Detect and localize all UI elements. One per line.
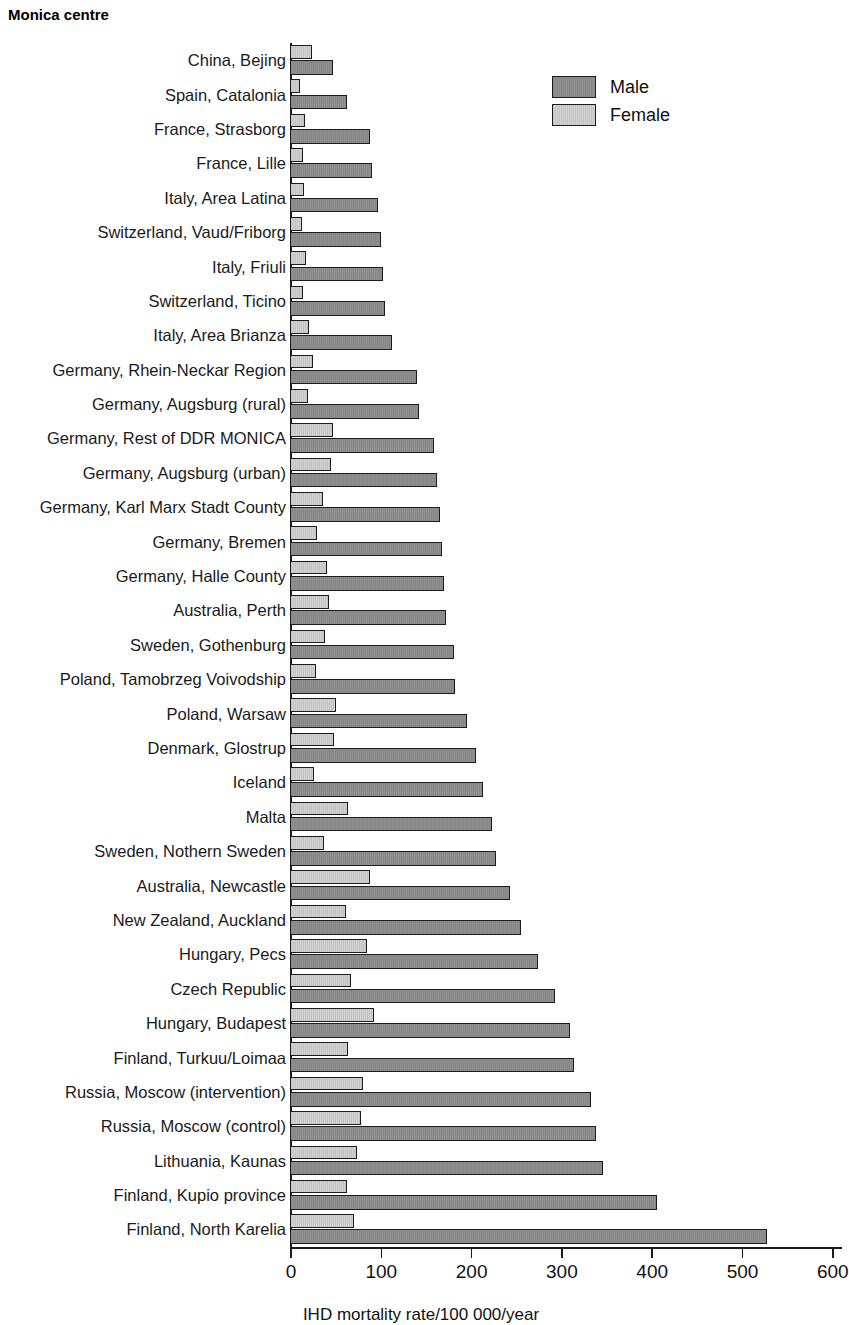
bar-pair bbox=[291, 662, 842, 696]
bar-pair bbox=[291, 834, 842, 868]
bar-pair bbox=[291, 937, 842, 971]
bar-male bbox=[291, 989, 555, 1004]
bar-male bbox=[291, 1161, 603, 1176]
bar-row: Malta bbox=[0, 800, 842, 834]
bar-pair bbox=[291, 421, 842, 455]
bar-row-label: Finland, Turkuu/Loimaa bbox=[114, 1049, 286, 1066]
bar-female bbox=[291, 1077, 363, 1091]
bar-female bbox=[291, 664, 316, 678]
bar-male bbox=[291, 198, 378, 213]
bar-female bbox=[291, 79, 300, 93]
bar-female bbox=[291, 870, 370, 884]
bar-pair bbox=[291, 1144, 842, 1178]
bar-row-label: Russia, Moscow (control) bbox=[101, 1118, 286, 1135]
bar-row: Spain, Catalonia bbox=[0, 77, 842, 111]
bar-pair bbox=[291, 628, 842, 662]
bar-pair bbox=[291, 972, 842, 1006]
bar-row-label: Poland, Warsaw bbox=[166, 705, 286, 722]
bar-female bbox=[291, 1042, 348, 1056]
bar-female bbox=[291, 286, 303, 300]
bar-pair bbox=[291, 318, 842, 352]
bar-row-label: Australia, Perth bbox=[173, 602, 286, 619]
bar-female bbox=[291, 595, 329, 609]
bar-pair bbox=[291, 1109, 842, 1143]
bar-male bbox=[291, 129, 370, 144]
legend-item-female: Female bbox=[552, 102, 670, 128]
bar-row-label: Germany, Augsburg (urban) bbox=[83, 465, 286, 482]
bar-female bbox=[291, 389, 308, 403]
bar-row: Germany, Rest of DDR MONICA bbox=[0, 421, 842, 455]
bar-male bbox=[291, 886, 510, 901]
x-axis-tick bbox=[471, 1249, 473, 1258]
bar-pair bbox=[291, 696, 842, 730]
bar-pair bbox=[291, 1178, 842, 1212]
bar-male bbox=[291, 301, 385, 316]
bar-female bbox=[291, 320, 309, 334]
bar-male bbox=[291, 782, 483, 797]
bar-pair bbox=[291, 456, 842, 490]
bar-male bbox=[291, 1195, 657, 1210]
bar-row: Poland, Tamobrzeg Voivodship bbox=[0, 662, 842, 696]
bar-female bbox=[291, 526, 317, 540]
bar-row-label: Hungary, Budapest bbox=[146, 1015, 286, 1032]
bar-pair bbox=[291, 868, 842, 902]
bar-pair bbox=[291, 146, 842, 180]
bar-pair bbox=[291, 284, 842, 318]
bar-pair bbox=[291, 43, 842, 77]
bar-pair bbox=[291, 903, 842, 937]
bar-row: Finland, Turkuu/Loimaa bbox=[0, 1040, 842, 1074]
bar-male bbox=[291, 232, 381, 247]
bar-row-label: Germany, Bremen bbox=[152, 533, 286, 550]
bar-female bbox=[291, 183, 304, 197]
x-axis-tick-label: 500 bbox=[727, 1261, 759, 1283]
bar-pair bbox=[291, 800, 842, 834]
bar-row-label: Russia, Moscow (intervention) bbox=[65, 1084, 286, 1101]
bar-row: Germany, Bremen bbox=[0, 524, 842, 558]
bar-pair bbox=[291, 215, 842, 249]
bar-row: Russia, Moscow (intervention) bbox=[0, 1075, 842, 1109]
x-axis-tick-label: 0 bbox=[286, 1261, 297, 1283]
bar-row: Sweden, Nothern Sweden bbox=[0, 834, 842, 868]
bar-male bbox=[291, 920, 521, 935]
bar-row-label: Italy, Friuli bbox=[212, 258, 286, 275]
bar-row-label: Germany, Rhein-Neckar Region bbox=[52, 361, 286, 378]
bar-row-label: Germany, Karl Marx Stadt County bbox=[40, 499, 286, 516]
bar-row-label: Sweden, Gothenburg bbox=[130, 637, 286, 654]
bar-row-label: France, Strasborg bbox=[154, 121, 286, 138]
bar-row-label: Lithuania, Kaunas bbox=[154, 1152, 286, 1169]
bar-male bbox=[291, 954, 538, 969]
bar-row: Germany, Halle County bbox=[0, 559, 842, 593]
bar-male bbox=[291, 1229, 767, 1244]
bar-male bbox=[291, 679, 455, 694]
bar-pair bbox=[291, 1006, 842, 1040]
bar-row: Iceland bbox=[0, 765, 842, 799]
bar-female bbox=[291, 1146, 357, 1160]
bar-row-label: China, Bejing bbox=[188, 52, 286, 69]
bar-female bbox=[291, 733, 334, 747]
bar-row: Poland, Warsaw bbox=[0, 696, 842, 730]
bar-row: Germany, Karl Marx Stadt County bbox=[0, 490, 842, 524]
bar-row: Germany, Augsburg (rural) bbox=[0, 387, 842, 421]
x-axis-tick bbox=[381, 1249, 383, 1258]
bar-row-label: Switzerland, Vaud/Friborg bbox=[97, 224, 286, 241]
bar-row: Finland, Kupio province bbox=[0, 1178, 842, 1212]
bar-row: Russia, Moscow (control) bbox=[0, 1109, 842, 1143]
bar-female bbox=[291, 561, 327, 575]
bar-row: Lithuania, Kaunas bbox=[0, 1144, 842, 1178]
bar-male bbox=[291, 1058, 574, 1073]
bar-male bbox=[291, 817, 492, 832]
bar-row: Hungary, Pecs bbox=[0, 937, 842, 971]
bar-row: Italy, Friuli bbox=[0, 249, 842, 283]
legend-swatch-male-icon bbox=[552, 76, 596, 98]
bar-row-label: Poland, Tamobrzeg Voivodship bbox=[60, 671, 286, 688]
bar-female bbox=[291, 767, 314, 781]
bar-row-label: Italy, Area Brianza bbox=[153, 327, 286, 344]
bar-row-label: Spain, Catalonia bbox=[165, 86, 286, 103]
bar-row-label: New Zealand, Auckland bbox=[113, 912, 286, 929]
bar-male bbox=[291, 60, 333, 75]
bar-male bbox=[291, 507, 440, 522]
bar-row-label: Australia, Newcastle bbox=[137, 877, 286, 894]
x-axis-tick-label: 300 bbox=[546, 1261, 578, 1283]
bar-male bbox=[291, 645, 454, 660]
bar-male bbox=[291, 335, 392, 350]
